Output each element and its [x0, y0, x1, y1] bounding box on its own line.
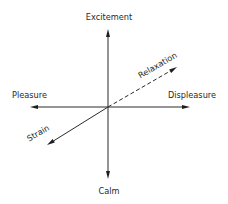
axis-calm — [106, 107, 110, 179]
label-excitement: Excitement — [86, 12, 133, 22]
label-pleasure: Pleasure — [12, 90, 47, 100]
axis-pleasure — [30, 105, 108, 109]
arrowhead-left-icon — [30, 105, 38, 109]
axis-strain — [47, 107, 108, 145]
label-relaxation: Relaxation — [136, 50, 178, 80]
arrowhead-right-icon — [182, 105, 190, 109]
arrowhead-down-left-icon — [47, 139, 55, 145]
arrowhead-down-icon — [106, 171, 110, 179]
label-calm: Calm — [99, 186, 120, 196]
axis-displeasure — [108, 105, 190, 109]
label-strain: Strain — [25, 123, 51, 144]
arrowhead-up-right-icon — [169, 67, 177, 73]
arrowhead-up-icon — [106, 29, 110, 37]
axis-excitement — [106, 29, 110, 107]
label-displeasure: Displeasure — [168, 90, 216, 100]
emotion-dimensions-diagram: Excitement Calm Pleasure Displeasure Rel… — [0, 0, 228, 204]
